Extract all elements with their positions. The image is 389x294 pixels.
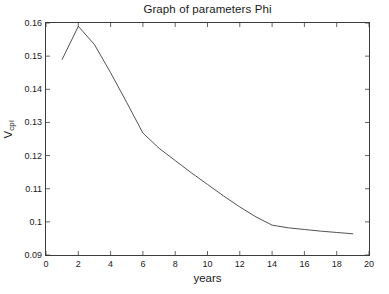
x-axis-tick-label: 8 [164,259,186,269]
x-axis-label: years [45,272,370,284]
data-series-line [62,26,353,233]
data-plot-svg [46,23,369,255]
x-axis-tick-label: 20 [358,259,380,269]
x-axis-tick-label: 4 [100,259,122,269]
x-axis-tick-label: 16 [293,259,315,269]
x-axis-tick-label: 18 [326,259,348,269]
x-axis-tick-label: 14 [261,259,283,269]
y-axis-tick-label: 0.14 [10,84,42,94]
y-axis-ticks [46,23,369,255]
x-axis-tick-label: 0 [35,259,57,269]
y-axis-tick-labels: 0.090.10.110.120.130.140.150.16 [8,22,42,256]
x-axis-tick-label: 6 [132,259,154,269]
figure-canvas: Graph of parameters Phi Vcpl 0.090.10.11… [0,0,389,294]
x-axis-ticks [46,23,369,255]
y-axis-tick-label: 0.13 [10,117,42,127]
y-axis-tick-label: 0.1 [10,217,42,227]
x-axis-tick-label: 12 [229,259,251,269]
plot-area [45,22,370,256]
y-axis-tick-label: 0.15 [10,51,42,61]
x-axis-tick-label: 2 [67,259,89,269]
x-axis-tick-label: 10 [197,259,219,269]
x-axis-tick-labels: 02468101214161820 [45,259,370,273]
y-axis-tick-label: 0.16 [10,18,42,28]
chart-title: Graph of parameters Phi [45,3,370,15]
y-axis-tick-label: 0.12 [10,151,42,161]
y-axis-tick-label: 0.11 [10,184,42,194]
